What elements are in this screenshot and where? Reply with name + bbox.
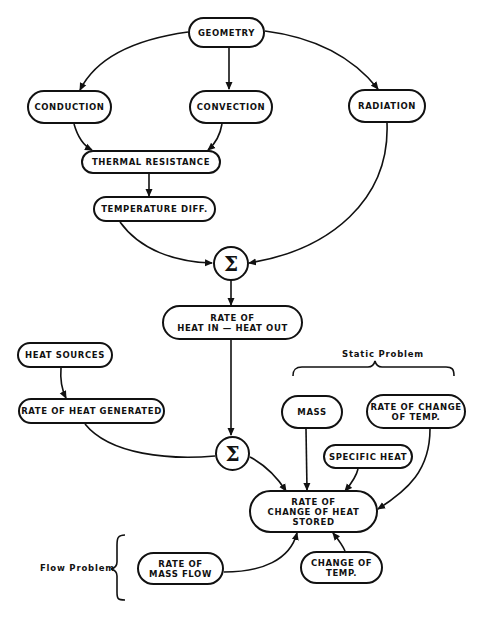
sum-node-2: Σ bbox=[215, 436, 250, 471]
edge-specheat-stored bbox=[345, 469, 358, 491]
edge-ratechangetemp-stored bbox=[378, 429, 430, 509]
node-rate-heat-in-out: RATE OF HEAT IN — HEAT OUT bbox=[162, 305, 303, 340]
node-geometry: GEOMETRY bbox=[188, 17, 265, 48]
edge-tempdiff-sum1 bbox=[120, 222, 212, 263]
edge-radiation-sum1 bbox=[249, 123, 387, 263]
edge-convection-thermal bbox=[208, 124, 222, 150]
edge-ratgen-sum2 bbox=[85, 424, 215, 457]
edge-geometry-conduction bbox=[80, 32, 188, 90]
edge-geometry-radiation bbox=[265, 31, 378, 89]
static-problem-brace bbox=[293, 361, 454, 376]
edge-heatsources-ratgen bbox=[61, 368, 66, 398]
edge-mass-stored bbox=[306, 429, 307, 490]
flow-problem-label: Flow Problem bbox=[40, 563, 115, 573]
node-rate-change-heat-stored: RATE OF CHANGE OF HEAT STORED bbox=[249, 490, 378, 533]
node-radiation: RADIATION bbox=[348, 89, 426, 123]
node-convection: CONVECTION bbox=[189, 90, 273, 124]
node-specific-heat: SPECIFIC HEAT bbox=[323, 444, 413, 469]
node-rate-heat-generated: RATE OF HEAT GENERATED bbox=[18, 398, 165, 424]
node-temperature-diff: TEMPERATURE DIFF. bbox=[93, 196, 216, 222]
node-change-of-temp: CHANGE OF TEMP. bbox=[300, 551, 383, 584]
edge-massflow-stored bbox=[224, 533, 297, 572]
edge-sum2-stored bbox=[250, 457, 286, 491]
node-rate-mass-flow: RATE OF MASS FLOW bbox=[137, 552, 224, 585]
node-mass: MASS bbox=[281, 395, 343, 429]
sum-node-1: Σ bbox=[213, 246, 249, 281]
node-heat-sources: HEAT SOURCES bbox=[17, 342, 113, 368]
edge-changetemp-stored bbox=[333, 533, 345, 551]
node-conduction: CONDUCTION bbox=[27, 90, 112, 124]
static-problem-label: Static Problem bbox=[342, 349, 424, 359]
node-rate-change-temp: RATE OF CHANGE OF TEMP. bbox=[366, 394, 466, 429]
node-thermal-resistance: THERMAL RESISTANCE bbox=[81, 150, 221, 174]
edge-conduction-thermal bbox=[74, 124, 92, 150]
